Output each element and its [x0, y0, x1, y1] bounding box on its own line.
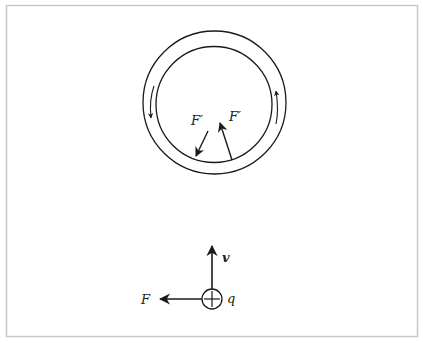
- force-arrow-up-icon: [220, 123, 232, 160]
- force-label: F: [140, 292, 151, 307]
- force-on-ring-right: F′: [220, 109, 241, 160]
- conducting-ring: [143, 31, 286, 174]
- force-on-ring-left: F′: [190, 113, 208, 156]
- ring-outer-edge: [143, 31, 286, 174]
- velocity-label: v: [222, 250, 230, 265]
- force-label-left: F′: [190, 113, 203, 128]
- moving-charge: v F q: [140, 246, 235, 309]
- current-arrow-left-icon: [150, 86, 154, 118]
- force-label-right: F′: [228, 109, 241, 124]
- charge-label: q: [227, 291, 235, 306]
- current-arrow-right-icon: [276, 91, 278, 124]
- diagram-canvas: F′ F′ v F q: [0, 0, 423, 343]
- ring-inner-edge: [156, 47, 272, 163]
- force-arrow-down-icon: [196, 131, 208, 156]
